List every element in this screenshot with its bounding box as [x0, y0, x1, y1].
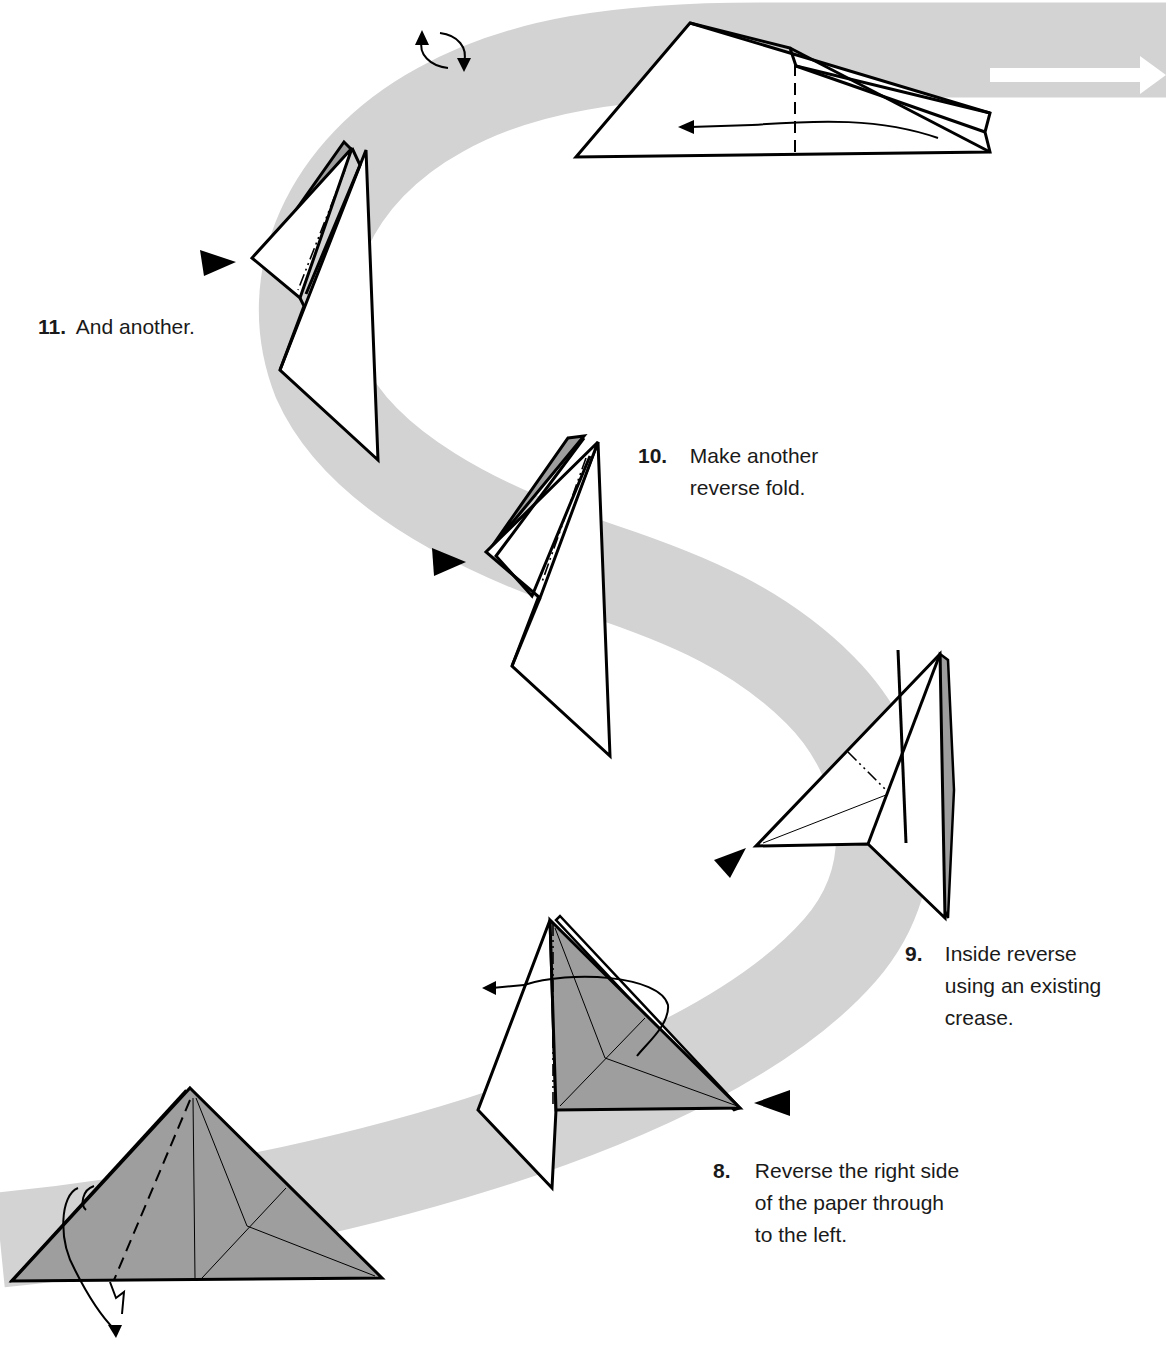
- step-11-caption: 11. And another.: [38, 311, 195, 343]
- step-number: 11.: [38, 311, 70, 343]
- step-text: And another.: [76, 311, 195, 343]
- step-text: Inside reverse using an existing crease.: [945, 938, 1101, 1034]
- step-8-caption: 8. Reverse the right side of the paper t…: [713, 1155, 959, 1251]
- step-10-caption: 10. Make another reverse fold.: [638, 440, 818, 504]
- step-text: Reverse the right side of the paper thro…: [755, 1155, 959, 1251]
- step-number: 9.: [905, 938, 939, 970]
- push-arrow-icon: [754, 1090, 790, 1116]
- push-arrow-icon: [714, 848, 746, 878]
- step-number: 8.: [713, 1155, 749, 1187]
- origami-diagram: [0, 0, 1166, 1358]
- step-number: 10.: [638, 440, 684, 472]
- step-9-caption: 9. Inside reverse using an existing crea…: [905, 938, 1101, 1034]
- step-text: Make another reverse fold.: [690, 440, 818, 504]
- push-arrow-icon: [200, 250, 236, 276]
